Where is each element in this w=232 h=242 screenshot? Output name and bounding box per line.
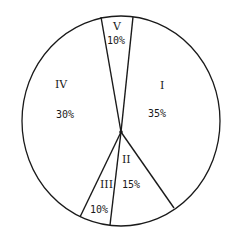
- slice-label-II: II: [122, 153, 131, 166]
- slice-pct-II: 15%: [122, 179, 140, 190]
- pie-center: [119, 130, 123, 134]
- slice-pct-III: 10%: [90, 204, 108, 215]
- pie-chart: I 35% II 15% III 10% IV 30% V 10%: [0, 0, 232, 242]
- slice-pct-IV: 30%: [56, 109, 74, 120]
- slice-label-I: I: [160, 79, 164, 92]
- slice-pct-I: 35%: [148, 108, 166, 119]
- pie-outline: [22, 16, 220, 226]
- slice-pct-V: 10%: [107, 35, 125, 46]
- slice-label-V: V: [112, 20, 122, 33]
- slice-label-III: III: [100, 178, 113, 191]
- slice-label-IV: IV: [55, 78, 68, 91]
